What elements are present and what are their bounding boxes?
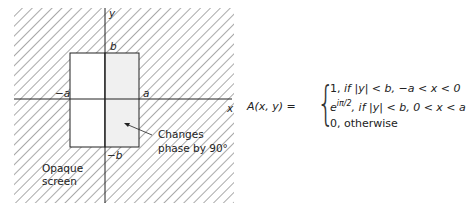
aperture-right-half xyxy=(105,53,139,147)
equation-case-3: 0, otherwise xyxy=(330,117,398,130)
equation-case-2: eiπ/2, if |y| < b, 0 < x < a xyxy=(330,99,466,114)
phase-annotation-line1: Changes xyxy=(158,129,204,140)
tick-a-pos: a xyxy=(143,88,149,99)
x-axis-label: x xyxy=(227,103,233,114)
y-axis-label: y xyxy=(109,8,115,19)
tick-a-neg: −a xyxy=(55,88,70,99)
screen-annotation-line1: Opaque xyxy=(42,163,83,174)
screen-annotation-line2: screen xyxy=(42,176,77,187)
aperture-left-half xyxy=(70,53,105,147)
phase-annotation-line2: phase by 90° xyxy=(158,143,228,154)
equation-lhs: A(x, y) = xyxy=(247,100,296,113)
equation-case-1: 1, if |y| < b, −a < x < 0 xyxy=(330,82,460,95)
tick-b-pos: b xyxy=(110,41,117,52)
tick-b-neg: −b xyxy=(107,150,122,161)
